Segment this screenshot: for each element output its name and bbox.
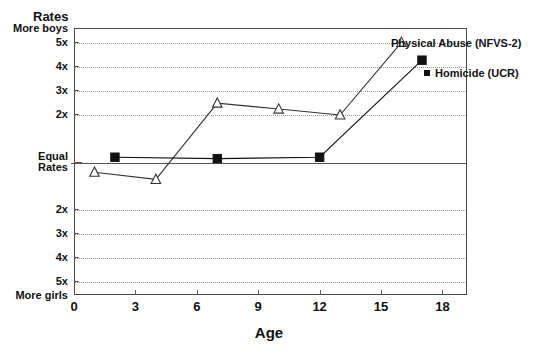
gridline: [75, 282, 466, 283]
y-axis-tick-mark: [74, 162, 82, 163]
x-axis-tick-label: 0: [54, 299, 94, 314]
legend-item-homicide: Homicide (UCR): [424, 67, 519, 79]
y-axis-tick-label: EqualRates: [38, 151, 68, 174]
chart-figure: Rates More boys5x4x3x2xEqualRates2x3x4x5…: [0, 0, 538, 357]
gridline: [75, 258, 466, 259]
y-axis-tick-mark: [74, 233, 79, 234]
y-axis-tick-label: 2x: [56, 109, 68, 120]
gridline: [75, 115, 466, 116]
x-axis-tick-label: 12: [300, 299, 340, 314]
x-axis-tick-label: 3: [115, 299, 155, 314]
x-axis-tick-label: 15: [361, 299, 401, 314]
x-axis-tick-mark: [135, 290, 136, 295]
y-axis-tick-label: 3x: [56, 85, 68, 96]
zero-reference-line: [71, 163, 466, 164]
y-axis-tick-label: 5x: [56, 37, 68, 48]
x-axis-tick-mark: [197, 290, 198, 295]
x-axis-tick-mark: [442, 290, 443, 295]
y-axis-tick-mark: [74, 257, 79, 258]
legend-item-physical-abuse: Physical Abuse (NFVS-2): [391, 37, 521, 49]
y-axis-tick-label: 4x: [56, 252, 68, 263]
x-axis-tick-mark: [258, 290, 259, 295]
gridline: [75, 91, 466, 92]
x-axis-tick-label: 18: [422, 299, 462, 314]
x-axis-title: Age: [0, 324, 538, 341]
x-axis-tick-label: 6: [177, 299, 217, 314]
y-axis-tick-mark: [74, 209, 79, 210]
y-axis-tick-mark: [74, 66, 79, 67]
x-axis-tick-mark: [381, 290, 382, 295]
gridline: [75, 234, 466, 235]
y-axis-tick-mark: [74, 281, 79, 282]
y-axis-tick-mark: [74, 114, 79, 115]
y-axis-tick-label: 4x: [56, 61, 68, 72]
y-axis-tick-label: More boys: [13, 23, 68, 34]
x-axis-tick-mark: [320, 290, 321, 295]
y-axis-tick-label: 2x: [56, 204, 68, 215]
legend-label-physical-abuse: Physical Abuse (NFVS-2): [391, 37, 521, 49]
x-axis-tick-label: 9: [238, 299, 278, 314]
legend-marker-homicide-icon: [424, 70, 430, 76]
y-axis-tick-label: 3x: [56, 228, 68, 239]
y-axis-tick-mark: [74, 90, 79, 91]
plot-area: [74, 28, 467, 295]
legend-label-homicide: Homicide (UCR): [435, 67, 519, 79]
gridline: [75, 67, 466, 68]
gridline: [75, 210, 466, 211]
y-axis-tick-mark: [74, 42, 79, 43]
y-axis-tick-label: 5x: [56, 276, 68, 287]
